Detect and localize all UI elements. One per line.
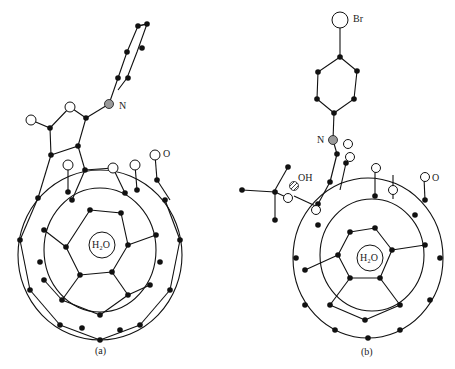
water-label-b: H₂O [360, 252, 378, 263]
panel-b-atoms [239, 12, 443, 341]
panel-b-structure [242, 28, 443, 338]
panel-b-caption: (b) [361, 346, 373, 357]
panel-a-caption: (a) [95, 345, 106, 356]
oxygen-label-a: O [163, 148, 170, 159]
nitrogen-atom-b [329, 136, 338, 145]
water-label-a: H₂O [92, 239, 110, 250]
panel-a-atoms [17, 21, 183, 343]
nitrogen-label-a: N [119, 100, 126, 111]
bromine-atom [332, 12, 348, 28]
bromine-label: Br [353, 13, 363, 24]
hydroxyl-label: OH [298, 172, 312, 183]
nitrogen-label-b: N [317, 134, 324, 145]
nitrogen-atom [105, 100, 114, 109]
oxygen-label-b: O [432, 172, 439, 183]
molecular-structure-figure [0, 0, 455, 369]
